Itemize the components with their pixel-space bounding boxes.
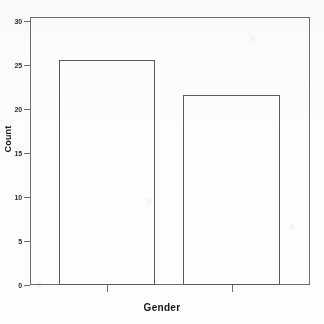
y-axis-title: Count (3, 111, 13, 167)
y-tick-label-10: 10 (0, 194, 22, 201)
y-tick-label-15: 15 (0, 150, 22, 157)
bars-layer (30, 17, 310, 285)
y-tick-mark-0 (24, 285, 30, 286)
y-tick-label-5: 5 (0, 238, 22, 245)
x-tick-mark-1 (107, 285, 108, 292)
y-tick-label-20: 20 (0, 106, 22, 113)
bar-male[interactable] (59, 60, 155, 285)
y-tick-label-25: 25 (0, 62, 22, 69)
y-tick-label-0: 0 (0, 282, 22, 289)
chart-page: Count 30 25 20 15 10 5 0 Gender (0, 0, 324, 324)
x-tick-mark-2 (232, 285, 233, 292)
x-axis-title: Gender (0, 302, 324, 313)
y-tick-label-30: 30 (0, 18, 22, 25)
bar-female[interactable] (183, 95, 280, 285)
